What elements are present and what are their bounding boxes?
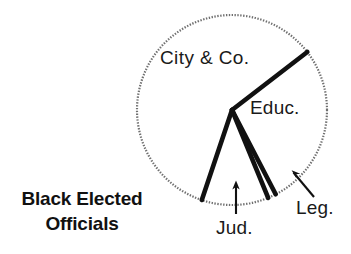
slice-label-leg: Leg. bbox=[296, 198, 334, 218]
pie-chart-figure: City & Co. Educ. Jud. Leg. Black Elected… bbox=[0, 0, 351, 254]
chart-caption: Black Elected Officials bbox=[6, 186, 158, 236]
slice-label-jud: Jud. bbox=[216, 218, 253, 238]
slice-label-city-and-co: City & Co. bbox=[160, 48, 250, 68]
slice-label-educ: Educ. bbox=[250, 98, 300, 118]
chart-caption-line-1: Black Elected bbox=[6, 186, 158, 211]
chart-caption-line-2: Officials bbox=[6, 211, 158, 236]
